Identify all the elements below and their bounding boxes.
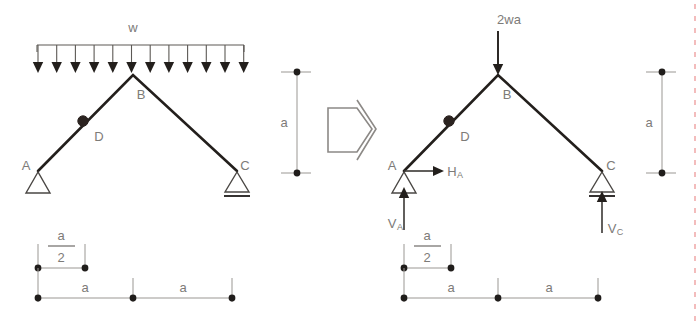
vertical-dimension-label-right: a xyxy=(645,115,653,130)
joint-label-b-right: B xyxy=(503,87,512,102)
joint-label-c: C xyxy=(240,158,249,173)
load-arrow xyxy=(220,45,230,73)
reaction-va-subscript: A xyxy=(397,222,403,232)
half-span-denominator: 2 xyxy=(57,250,64,265)
reaction-va-label: V xyxy=(388,216,397,231)
span-label-right: a xyxy=(179,280,187,295)
reaction-va: V A xyxy=(388,187,410,232)
page-edge-marks xyxy=(694,4,696,321)
internal-hinge-d-right xyxy=(444,116,454,126)
vertical-dimension-label-left: a xyxy=(280,115,288,130)
load-arrow xyxy=(145,45,155,73)
left-diagram-group: w A B C D xyxy=(22,20,311,302)
joint-label-c-right: C xyxy=(606,158,615,173)
roller-support-c xyxy=(225,172,249,192)
bottom-dimensions-right: a 2 a a xyxy=(401,228,602,302)
joint-label-d: D xyxy=(94,129,103,144)
pin-support-a xyxy=(26,172,50,193)
bottom-dimensions-left: a 2 a a xyxy=(35,228,236,302)
load-arrow xyxy=(164,45,174,73)
load-arrow xyxy=(182,45,192,73)
reaction-ha: H A xyxy=(404,164,463,180)
reaction-ha-label: H xyxy=(447,164,456,179)
right-diagram-group: 2wa A B C D H A V A xyxy=(388,12,676,302)
span-label-left-right-diagram: a xyxy=(447,280,455,295)
reaction-vc-subscript: C xyxy=(617,227,624,237)
distributed-load-label: w xyxy=(127,20,138,35)
joint-label-b: B xyxy=(137,87,146,102)
load-arrow xyxy=(89,45,99,73)
transform-arrow-symbol xyxy=(328,100,376,160)
joint-label-a: A xyxy=(22,158,31,173)
roller-support-c-right xyxy=(590,172,614,192)
half-span-numerator-right: a xyxy=(423,228,431,243)
vertical-dimension-right: a xyxy=(645,69,676,177)
reaction-vc-label: V xyxy=(608,221,617,236)
span-label-left: a xyxy=(81,280,89,295)
load-arrow xyxy=(33,45,43,73)
internal-hinge-d xyxy=(78,116,88,126)
load-arrow xyxy=(70,45,80,73)
joint-label-d-right: D xyxy=(460,129,469,144)
load-arrow xyxy=(239,45,249,73)
span-label-right-right-diagram: a xyxy=(545,280,553,295)
load-arrow xyxy=(126,45,136,73)
joint-label-a-right: A xyxy=(388,158,397,173)
vertical-dimension-left: a xyxy=(280,69,311,177)
distributed-load-arrows xyxy=(33,45,249,73)
load-arrow xyxy=(52,45,62,73)
half-span-denominator-right: 2 xyxy=(423,250,430,265)
half-span-numerator: a xyxy=(57,228,65,243)
reaction-ha-subscript: A xyxy=(457,170,463,180)
load-arrow xyxy=(201,45,211,73)
load-arrow xyxy=(108,45,118,73)
point-load-label: 2wa xyxy=(497,12,522,27)
statics-figure-canvas: w A B C D xyxy=(0,0,698,330)
figure-root: w A B C D xyxy=(0,0,698,330)
reaction-vc: V C xyxy=(597,191,624,237)
